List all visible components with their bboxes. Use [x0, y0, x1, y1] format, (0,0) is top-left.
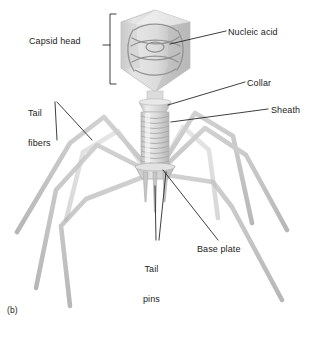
capsid-head-group	[121, 10, 190, 92]
label-base-plate: Base plate	[197, 244, 241, 254]
label-tail-fibers: Tail fibers	[28, 88, 51, 168]
base-plate-rim	[135, 163, 175, 171]
tail-fiber-lower-right	[160, 174, 282, 300]
label-capsid-head: Capsid head	[29, 36, 81, 46]
neck-collar-group	[139, 91, 171, 112]
label-tail-pins-line2: pins	[143, 294, 160, 304]
label-collar: Collar	[247, 78, 271, 88]
tail-fibers-leader-b	[57, 102, 92, 140]
label-tail-fibers-line1: Tail	[28, 108, 51, 118]
label-tail-pins-line1: Tail	[143, 264, 160, 274]
label-sheath: Sheath	[271, 105, 300, 115]
capsid-head-bracket	[110, 14, 116, 84]
collar-rim	[139, 99, 171, 105]
tail-pin-left	[143, 172, 148, 202]
sheath-highlight	[145, 113, 150, 165]
label-tail-pins: Tail pins	[143, 244, 160, 324]
bacteriophage-figure: Capsid head Nucleic acid Collar Sheath T…	[0, 0, 318, 338]
tail-fiber-left	[36, 145, 150, 288]
sheath-group	[141, 112, 169, 166]
figure-part-label: (b)	[7, 305, 18, 315]
collar-leader	[168, 82, 245, 105]
sheath-leader	[171, 109, 268, 122]
label-tail-fibers-line2: fibers	[28, 138, 51, 148]
label-nucleic-acid: Nucleic acid	[228, 27, 278, 37]
tail-fibers-leader-a	[55, 102, 57, 140]
tail-pins-leader-b	[159, 172, 166, 240]
